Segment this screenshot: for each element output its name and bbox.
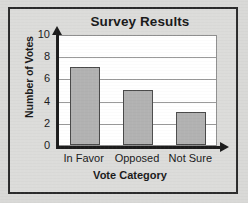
y-axis-arrow-icon xyxy=(52,26,62,35)
y-axis-tick-label: 4 xyxy=(28,95,50,107)
y-axis-tick-label: 8 xyxy=(28,50,50,62)
bar xyxy=(123,90,153,146)
x-axis-tick-label: Not Sure xyxy=(150,152,230,164)
plot-area xyxy=(57,35,217,146)
bar xyxy=(176,112,206,145)
x-axis-title: Vote Category xyxy=(40,169,220,181)
bar xyxy=(70,67,100,145)
x-axis-line xyxy=(56,146,222,149)
y-axis-tick-label: 10 xyxy=(28,28,50,40)
gridline xyxy=(58,35,216,36)
y-axis-tick-label: 2 xyxy=(28,117,50,129)
x-axis-arrow-icon xyxy=(220,142,229,152)
gridline xyxy=(58,57,216,58)
y-axis-line xyxy=(56,33,59,149)
chart-figure: Survey Results Number of Votes Vote Cate… xyxy=(8,7,238,194)
y-axis-tick-label: 6 xyxy=(28,72,50,84)
y-axis-tick-label: 0 xyxy=(28,139,50,151)
chart-title: Survey Results xyxy=(48,14,232,29)
